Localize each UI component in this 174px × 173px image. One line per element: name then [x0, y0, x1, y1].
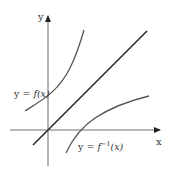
- y-axis-label: y: [37, 11, 44, 22]
- curve-f-inverse-label-arg: (x): [111, 141, 124, 152]
- x-axis-label: x: [156, 136, 162, 147]
- inverse-function-diagram: y x y = f(x) y = f−1(x): [0, 0, 174, 173]
- curve-f-inverse-label: y = f−1(x): [77, 140, 124, 152]
- curve-f-label-prefix: y =: [13, 88, 33, 99]
- curve-f-label: y = f(x): [13, 88, 50, 99]
- curve-f-label-body: f(x): [32, 88, 50, 99]
- curve-f-inverse-label-sup: −1: [101, 140, 111, 148]
- identity-line: [33, 31, 147, 145]
- curve-f-inverse-label-prefix: y =: [77, 141, 97, 152]
